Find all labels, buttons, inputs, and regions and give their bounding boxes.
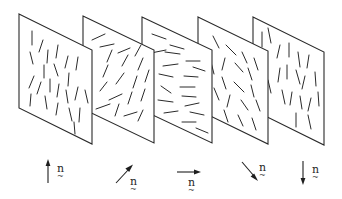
director-tilde-2: ~ [130, 185, 137, 194]
arrow-up-icon [46, 159, 51, 166]
arrow-down-icon [301, 178, 306, 185]
layer-panel-1 [19, 14, 92, 144]
layered-director-diagram: n ~ n ~ n ~ n ~ n ~ [0, 0, 342, 199]
director-arrow-4: n ~ [242, 161, 266, 181]
director-arrow-2: n ~ [116, 165, 137, 195]
arrow-down-right-icon [251, 173, 258, 181]
director-arrow-5: n ~ [301, 161, 319, 185]
director-tilde-5: ~ [312, 173, 319, 182]
director-arrow-3: n ~ [177, 170, 201, 195]
director-tilde-3: ~ [188, 186, 195, 195]
arrow-right-icon [194, 170, 201, 175]
director-tilde-1: ~ [57, 172, 64, 181]
director-arrow-1: n ~ [46, 159, 64, 183]
director-tilde-4: ~ [259, 171, 266, 180]
